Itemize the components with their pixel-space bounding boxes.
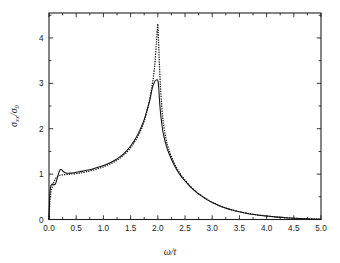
x-axis-title-t: t <box>174 246 177 257</box>
x-tick-label: 1.5 <box>125 224 137 233</box>
x-tick-label: 4.5 <box>288 224 300 233</box>
y-tick-label: 0 <box>39 216 44 225</box>
x-tick-label: 0.0 <box>43 224 55 233</box>
axis-ticks <box>49 13 321 220</box>
data-curves <box>49 24 321 220</box>
series-curve-dotted <box>49 24 321 220</box>
figure-container: 0.00.51.01.52.02.53.03.54.04.55.0 01234 … <box>0 0 340 263</box>
y-tick-label: 3 <box>39 79 44 88</box>
x-tick-label: 0.5 <box>71 224 83 233</box>
y-tick-labels: 01234 <box>39 34 44 225</box>
y-axis-title-sigma0-sub: 0 <box>13 104 20 108</box>
y-axis-title: σxx/σ0 <box>8 104 20 127</box>
x-tick-label: 4.0 <box>261 224 273 233</box>
x-tick-label: 3.0 <box>207 224 219 233</box>
chart-svg: 0.00.51.01.52.02.53.03.54.04.55.0 01234 … <box>0 0 340 263</box>
y-tick-label: 4 <box>39 34 44 43</box>
y-tick-label: 1 <box>39 170 44 179</box>
plot-frame <box>49 13 321 220</box>
series-curve-solid <box>49 80 321 220</box>
x-tick-labels: 0.00.51.01.52.02.53.03.54.04.55.0 <box>43 224 327 233</box>
x-axis-title-omega: ω <box>164 246 171 257</box>
svg-text:σxx/σ0: σxx/σ0 <box>8 104 20 127</box>
x-tick-label: 2.5 <box>179 224 191 233</box>
x-tick-label: 2.0 <box>152 224 164 233</box>
x-tick-label: 3.5 <box>234 224 246 233</box>
svg-text:ω/t: ω/t <box>164 246 177 257</box>
x-tick-label: 1.0 <box>98 224 110 233</box>
x-tick-label: 5.0 <box>315 224 327 233</box>
x-axis-title: ω/t <box>164 246 177 257</box>
y-tick-label: 2 <box>39 125 44 134</box>
